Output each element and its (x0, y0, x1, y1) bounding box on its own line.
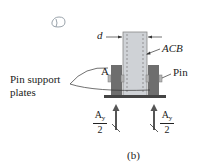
force-right-sub: y (169, 114, 173, 122)
member-acb (123, 32, 147, 96)
force-right-den: 2 (160, 125, 174, 135)
force-label-right: Ay 2 (160, 110, 174, 135)
force-right-num: A (162, 109, 169, 120)
label-acb: ACB (162, 43, 183, 54)
force-arrow-left (112, 104, 120, 132)
plate-left (111, 65, 122, 96)
base (104, 95, 166, 98)
force-arrow-right (150, 104, 158, 132)
force-left-sub: y (102, 114, 106, 122)
label-a: A (101, 66, 109, 77)
label-pin-support-2: plates (10, 87, 36, 98)
label-pin-support-1: Pin support (10, 74, 60, 85)
plate-right (148, 65, 159, 96)
label-pin: Pin (173, 67, 188, 78)
pin-right (159, 75, 162, 82)
force-label-left: Ay 2 (93, 110, 107, 135)
figure-caption: (b) (127, 150, 140, 161)
logo-icon (52, 17, 65, 27)
force-left-den: 2 (93, 125, 107, 135)
force-left-num: A (95, 109, 102, 120)
label-d: d (97, 30, 103, 41)
